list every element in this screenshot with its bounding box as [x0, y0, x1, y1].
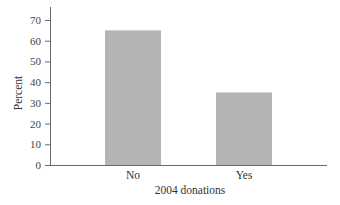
y-tick-label: 40	[30, 76, 42, 88]
x-category-label-no: No	[126, 169, 140, 181]
y-tick-label: 30	[30, 97, 42, 109]
bar-chart: 010203040506070 NoYes 2004 donations Per…	[0, 0, 340, 205]
y-tick-label: 0	[36, 159, 42, 171]
bars-group	[105, 30, 272, 165]
x-category-label-yes: Yes	[236, 169, 253, 181]
y-ticks-group: 010203040506070	[30, 14, 51, 171]
y-tick-label: 10	[30, 138, 42, 150]
y-tick-label: 20	[30, 118, 42, 130]
axes-group	[50, 7, 327, 166]
x-category-labels: NoYes	[126, 169, 253, 181]
bar-yes	[216, 93, 272, 166]
y-tick-label: 70	[30, 14, 42, 26]
x-axis-title: 2004 donations	[155, 184, 226, 196]
bar-no	[105, 30, 161, 165]
y-axis-title: Percent	[12, 75, 24, 110]
y-tick-label: 60	[30, 35, 42, 47]
y-tick-label: 50	[30, 55, 42, 67]
